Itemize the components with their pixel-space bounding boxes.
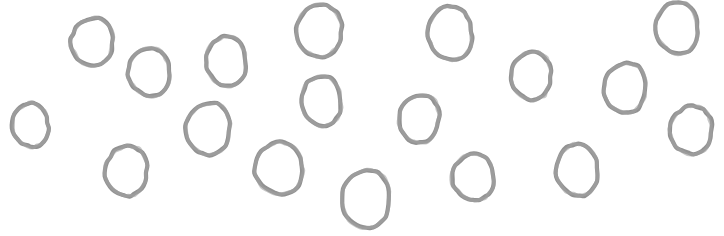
ellipse-stroke [255, 142, 304, 195]
ellipse-shape [301, 76, 341, 127]
ellipse-stroke [302, 76, 342, 127]
ellipse-shape [12, 102, 49, 148]
ellipse-shape [398, 95, 439, 143]
ellipse-shape [555, 143, 597, 196]
ellipse-shape [206, 36, 246, 87]
sketch-canvas [0, 0, 724, 236]
ellipse-shape [185, 103, 231, 156]
ellipse-shape [128, 48, 170, 97]
ellipse-shape [105, 145, 148, 196]
ellipse-shape [604, 63, 646, 114]
ellipse-shape [511, 52, 551, 102]
ellipse-shape [427, 6, 472, 61]
ellipse-shape [451, 153, 494, 200]
ellipse-shape [342, 169, 390, 228]
ellipse-stroke [13, 102, 49, 148]
ellipse-stroke [427, 6, 471, 60]
ellipse-stroke [297, 4, 342, 57]
ellipse-shape [254, 141, 303, 194]
ellipses-svg [0, 0, 724, 236]
ellipse-stroke [206, 36, 245, 87]
ellipse-shape [296, 4, 342, 58]
ellipse-shape [655, 2, 697, 55]
ellipse-shape [70, 17, 114, 66]
ellipse-shape [669, 105, 712, 154]
